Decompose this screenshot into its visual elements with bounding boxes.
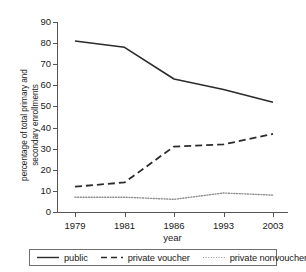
line-chart-figure: percentage of total primary and secondar… bbox=[0, 0, 306, 272]
y-tick-label: 40 bbox=[40, 122, 51, 133]
legend-label-public: public bbox=[64, 253, 88, 263]
y-tick-label: 90 bbox=[40, 16, 51, 27]
legend-item-private-voucher: private voucher bbox=[101, 253, 190, 263]
x-tick-mark-2003 bbox=[273, 212, 274, 217]
x-tick-label-1981: 1981 bbox=[114, 220, 135, 231]
legend-swatch-solid-icon bbox=[37, 253, 59, 262]
y-tick-mark bbox=[53, 212, 57, 213]
x-tick-label-1979: 1979 bbox=[64, 220, 85, 231]
x-axis-line bbox=[57, 212, 288, 213]
y-tick-label: 30 bbox=[40, 143, 51, 154]
y-tick-label: 60 bbox=[40, 79, 51, 90]
x-tick-label-2003: 2003 bbox=[262, 220, 283, 231]
x-tick-mark-1993 bbox=[224, 212, 225, 217]
legend-swatch-dotted-icon bbox=[203, 253, 225, 262]
legend-item-private-nonvoucher: private nonvoucher bbox=[203, 253, 306, 263]
y-tick-label: 10 bbox=[40, 185, 51, 196]
x-tick-label-1986: 1986 bbox=[163, 220, 184, 231]
legend-swatch-dashed-icon bbox=[101, 253, 123, 262]
series-line-public bbox=[75, 41, 273, 102]
x-tick-mark-1979 bbox=[75, 212, 76, 217]
series-plot bbox=[57, 22, 287, 212]
x-tick-mark-1986 bbox=[174, 212, 175, 217]
y-tick-label: 20 bbox=[40, 164, 51, 175]
legend-item-public: public bbox=[37, 253, 88, 263]
chart-legend: public private voucher private nonvouche… bbox=[29, 249, 277, 266]
series-line-private-voucher bbox=[75, 134, 273, 187]
x-axis-title: year bbox=[57, 232, 288, 243]
legend-label-private-nonvoucher: private nonvoucher bbox=[230, 253, 306, 263]
series-line-private-nonvoucher bbox=[75, 193, 273, 199]
plot-area: 0102030405060708090 19791981198619932003 bbox=[57, 22, 287, 212]
x-tick-label-1993: 1993 bbox=[213, 220, 234, 231]
y-tick-label: 70 bbox=[40, 58, 51, 69]
y-axis-title-line-2: secondary enrollments bbox=[30, 25, 41, 225]
x-tick-mark-1981 bbox=[125, 212, 126, 217]
y-tick-label: 0 bbox=[46, 206, 51, 217]
y-axis-title-line-1: percentage of total primary and bbox=[19, 25, 30, 225]
y-tick-label: 80 bbox=[40, 37, 51, 48]
y-tick-label: 50 bbox=[40, 100, 51, 111]
legend-label-private-voucher: private voucher bbox=[128, 253, 190, 263]
